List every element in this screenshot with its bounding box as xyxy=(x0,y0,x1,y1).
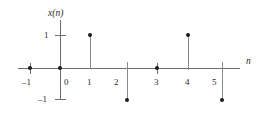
stem-line-n-4 xyxy=(188,36,189,70)
data-point-n-5 xyxy=(220,98,224,102)
stem-line-n-2 xyxy=(127,62,128,100)
y-tick-mark-positive-one xyxy=(55,35,66,36)
x-axis-label: n xyxy=(246,57,251,67)
data-point-n-2 xyxy=(125,98,129,102)
y-tick-mark-negative-one xyxy=(55,99,66,100)
data-point-n-minus-1 xyxy=(28,66,32,70)
data-point-n-1 xyxy=(88,33,92,37)
x-tick-label-minus-1: –1 xyxy=(22,78,31,87)
y-axis-label: x(n) xyxy=(48,9,63,19)
stem-line-n-5 xyxy=(222,62,223,100)
stem-plot-figure: x(n) n 1 –1 –1 0 1 2 3 4 5 xyxy=(0,0,264,113)
x-tick-label-0: 0 xyxy=(64,78,69,87)
x-axis-line xyxy=(18,68,240,69)
y-tick-label-negative-one: –1 xyxy=(38,95,47,104)
x-tick-label-4: 4 xyxy=(185,78,190,87)
stem-line-n-1 xyxy=(90,36,91,69)
y-tick-label-positive-one: 1 xyxy=(44,31,49,40)
x-tick-label-1: 1 xyxy=(87,78,92,87)
data-point-n-0 xyxy=(58,66,62,70)
x-tick-label-5: 5 xyxy=(212,78,217,87)
data-point-n-3 xyxy=(155,66,159,70)
x-tick-label-2: 2 xyxy=(114,78,119,87)
y-axis-line xyxy=(60,20,61,100)
data-point-n-4 xyxy=(186,33,190,37)
x-tick-label-3: 3 xyxy=(154,78,159,87)
